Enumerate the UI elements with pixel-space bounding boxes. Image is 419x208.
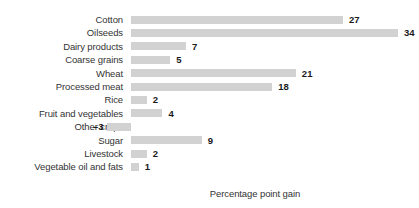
bar-container: 9 [0, 134, 419, 147]
chart-row: Cotton27 [0, 13, 419, 26]
chart-row: Rice2 [0, 93, 419, 106]
value-label: 4 [168, 107, 173, 120]
chart-row: Fruit and vegetables4 [0, 107, 419, 120]
chart-row: Oilseeds34 [0, 26, 419, 39]
bar-container: 1 [0, 160, 419, 173]
bar-container: 4 [0, 107, 419, 120]
bar-container: 5 [0, 53, 419, 66]
bar-container: 21 [0, 67, 419, 80]
chart-row: Sugar9 [0, 134, 419, 147]
bar [131, 136, 202, 144]
bar-chart: Cotton27Oilseeds34Dairy products7Coarse … [0, 0, 419, 208]
bar [131, 29, 398, 37]
value-label: 21 [302, 67, 313, 80]
value-label: 27 [349, 13, 360, 26]
bar-container: 7 [0, 40, 419, 53]
value-label: 18 [278, 80, 289, 93]
value-label: 2 [153, 147, 158, 160]
chart-row: Dairy products7 [0, 40, 419, 53]
chart-row: Livestock2 [0, 147, 419, 160]
bar-container: 18 [0, 80, 419, 93]
bar [131, 163, 139, 171]
bar [131, 56, 170, 64]
bar [131, 42, 186, 50]
value-label: 34 [404, 26, 415, 39]
chart-plot-area: Cotton27Oilseeds34Dairy products7Coarse … [0, 13, 419, 174]
bar-container: 27 [0, 13, 419, 26]
bar [131, 69, 296, 77]
chart-row: Wheat21 [0, 67, 419, 80]
bar-container: 34 [0, 26, 419, 39]
bar [131, 150, 147, 158]
bar-container: 2 [0, 147, 419, 160]
value-label: 1 [145, 160, 150, 173]
bar [131, 109, 162, 117]
value-label: 2 [153, 93, 158, 106]
value-label: –3 [93, 120, 104, 133]
value-label: 7 [192, 40, 197, 53]
chart-row: Other crops–3 [0, 120, 419, 133]
chart-row: Coarse grains5 [0, 53, 419, 66]
value-label: 5 [176, 53, 181, 66]
x-axis-label: Percentage point gain [131, 188, 379, 199]
bar-container: 2 [0, 93, 419, 106]
chart-row: Vegetable oil and fats1 [0, 160, 419, 173]
bar-container: –3 [0, 120, 419, 133]
chart-row: Processed meat18 [0, 80, 419, 93]
value-label: 9 [208, 134, 213, 147]
bar [131, 16, 343, 24]
bar [131, 96, 147, 104]
bar [107, 123, 131, 131]
bar [131, 83, 272, 91]
